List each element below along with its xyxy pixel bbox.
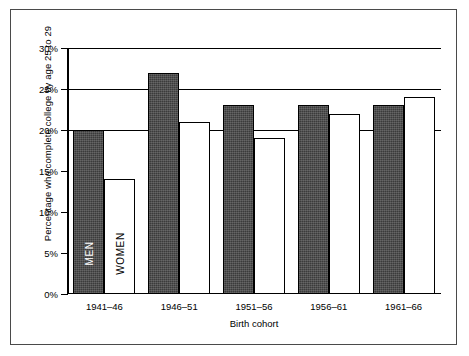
bar-men-4 [373,105,404,294]
series-label-men: MEN [83,241,94,265]
chart-figure: Percentage who complete college by age 2… [10,9,457,345]
y-axis-tick-label: 10% [39,207,58,218]
y-axis-tick-label: 15% [39,166,58,177]
bar-group: 1951–56 [217,48,292,294]
y-axis-tick [61,294,68,295]
bar-men-2 [223,105,254,294]
series-label-women: WOMEN [114,232,125,274]
y-axis-tick-label: 5% [44,248,58,259]
bar-women-2 [254,138,285,294]
x-axis-tick-label: 1961–66 [385,301,422,312]
bar-group: MENWOMEN1941–46 [67,48,142,294]
bar-women-3 [329,114,360,294]
x-axis-tick-label: 1956–61 [310,301,347,312]
plot-area: 0%5%10%15%20%25%30%MENWOMEN1941–461946–5… [67,48,441,294]
bar-group: 1946–51 [142,48,217,294]
y-axis-tick-label: 20% [39,125,58,136]
bar-men-1 [148,73,179,294]
y-axis-tick-label: 30% [39,43,58,54]
bar-women-1 [179,122,210,294]
bar-women-4 [404,97,435,294]
x-axis-tick-label: 1946–51 [161,301,198,312]
bar-women-0: WOMEN [104,179,135,294]
bar-group: 1956–61 [291,48,366,294]
bar-men-3 [298,105,329,294]
bar-group: 1961–66 [366,48,441,294]
y-axis-tick-label: 0% [44,289,58,300]
x-axis-title: Birth cohort [67,318,441,329]
x-axis-tick-label: 1951–56 [235,301,272,312]
bar-men-0: MEN [73,130,104,294]
x-axis-tick-label: 1941–46 [86,301,123,312]
y-axis-tick-label: 25% [39,84,58,95]
